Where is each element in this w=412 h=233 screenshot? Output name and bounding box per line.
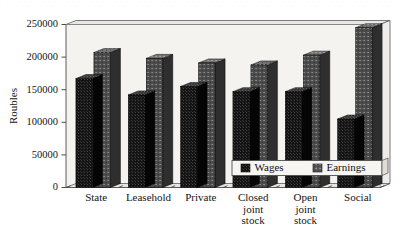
- y-axis-title: Roubles: [7, 88, 19, 124]
- scan-artifact-band: [6, 1, 406, 8]
- legend-swatch-texture: [313, 164, 322, 172]
- plot-ceiling-band: [66, 21, 390, 25]
- bar-wages-2: [181, 82, 208, 187]
- x-axis-category-label: stock: [242, 214, 266, 226]
- x-axis-category-label: Private: [185, 191, 216, 203]
- bar-chart-figure: 050000100000150000200000250000 Roubles S…: [0, 0, 412, 233]
- y-axis-tick-label: 100000: [27, 116, 59, 127]
- legend-swatch-texture: [241, 164, 250, 172]
- x-axis-category-label: joint: [294, 203, 315, 215]
- chart-legend: WagesEarnings: [232, 158, 388, 176]
- legend-label-wages: Wages: [255, 161, 284, 173]
- x-axis-category-label: Open: [294, 191, 318, 203]
- bar-wages-5: [338, 115, 365, 187]
- legend-box-side: [382, 158, 388, 176]
- y-axis-tick-label: 200000: [27, 51, 59, 62]
- y-axis-tick-label: 150000: [27, 84, 59, 95]
- legend-label-earnings: Earnings: [327, 161, 366, 173]
- x-axis-category-label: joint: [242, 203, 263, 215]
- bar-wages-1: [128, 91, 155, 188]
- x-axis-category-label: State: [85, 191, 107, 203]
- x-axis-category-label: Leasehold: [126, 191, 172, 203]
- bar-wages-0: [76, 75, 103, 188]
- chart-canvas: 050000100000150000200000250000 Roubles S…: [0, 0, 412, 233]
- y-axis-tick-label: 0: [53, 181, 58, 192]
- x-axis-category-label: stock: [294, 214, 318, 226]
- y-axis-tick-label: 50000: [32, 149, 58, 160]
- x-axis-category-label: Closed: [238, 191, 269, 203]
- y-axis-tick-label: 250000: [27, 18, 59, 29]
- x-axis-category-label: Social: [344, 191, 372, 203]
